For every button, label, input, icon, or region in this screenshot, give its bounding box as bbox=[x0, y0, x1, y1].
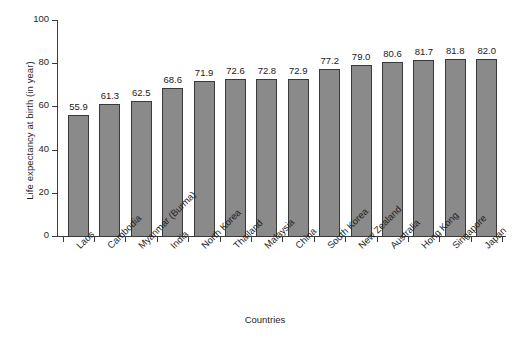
bar-value-label: 81.7 bbox=[408, 46, 440, 57]
y-tick-mark bbox=[52, 63, 57, 64]
y-tick-mark bbox=[52, 193, 57, 194]
y-axis-line bbox=[57, 20, 58, 237]
x-axis-title: Countries bbox=[0, 314, 530, 325]
bar bbox=[445, 59, 466, 237]
bar-value-label: 68.6 bbox=[157, 74, 189, 85]
bar bbox=[194, 81, 215, 237]
bar bbox=[288, 79, 309, 237]
bar bbox=[319, 69, 340, 237]
bar bbox=[476, 59, 497, 237]
y-tick: 20 bbox=[57, 193, 58, 194]
x-tick-mark bbox=[63, 237, 64, 242]
bar-value-label: 80.6 bbox=[377, 48, 409, 59]
bar-value-label: 77.2 bbox=[314, 55, 346, 66]
bar-value-label: 71.9 bbox=[188, 67, 220, 78]
y-tick-mark bbox=[52, 236, 57, 237]
bar-value-label: 82.0 bbox=[471, 45, 503, 56]
bar bbox=[99, 104, 120, 237]
y-tick: 100 bbox=[57, 20, 58, 21]
y-tick-label: 40 bbox=[38, 143, 49, 154]
bar bbox=[413, 60, 434, 237]
y-tick-mark bbox=[52, 106, 57, 107]
y-tick: 60 bbox=[57, 106, 58, 107]
y-tick-label: 0 bbox=[44, 229, 49, 240]
y-tick-label: 60 bbox=[38, 99, 49, 110]
bar-value-label: 72.8 bbox=[251, 65, 283, 76]
bar-value-label: 72.6 bbox=[220, 65, 252, 76]
bar-value-label: 72.9 bbox=[282, 65, 314, 76]
bar-value-label: 79.0 bbox=[345, 51, 377, 62]
bar bbox=[68, 115, 89, 237]
y-tick-mark bbox=[52, 20, 57, 21]
y-tick-label: 100 bbox=[33, 13, 49, 24]
bar-chart: Life expectancy at birth (in year) 02040… bbox=[0, 0, 530, 339]
bar-value-label: 61.3 bbox=[94, 90, 126, 101]
y-axis-title: Life expectancy at birth (in year) bbox=[24, 36, 35, 226]
y-tick-label: 80 bbox=[38, 56, 49, 67]
y-tick: 0 bbox=[57, 236, 58, 237]
bar-value-label: 81.8 bbox=[439, 45, 471, 56]
plot-area: 020406080100 55.961.362.568.671.972.672.… bbox=[57, 20, 505, 236]
y-tick-mark bbox=[52, 150, 57, 151]
bar-value-label: 62.5 bbox=[125, 87, 157, 98]
y-tick: 80 bbox=[57, 63, 58, 64]
y-tick: 40 bbox=[57, 150, 58, 151]
x-tick-mark bbox=[471, 237, 472, 242]
y-tick-label: 20 bbox=[38, 186, 49, 197]
bar bbox=[256, 79, 277, 237]
x-tick-mark bbox=[314, 237, 315, 242]
x-tick-mark bbox=[157, 237, 158, 242]
bar-value-label: 55.9 bbox=[63, 101, 95, 112]
